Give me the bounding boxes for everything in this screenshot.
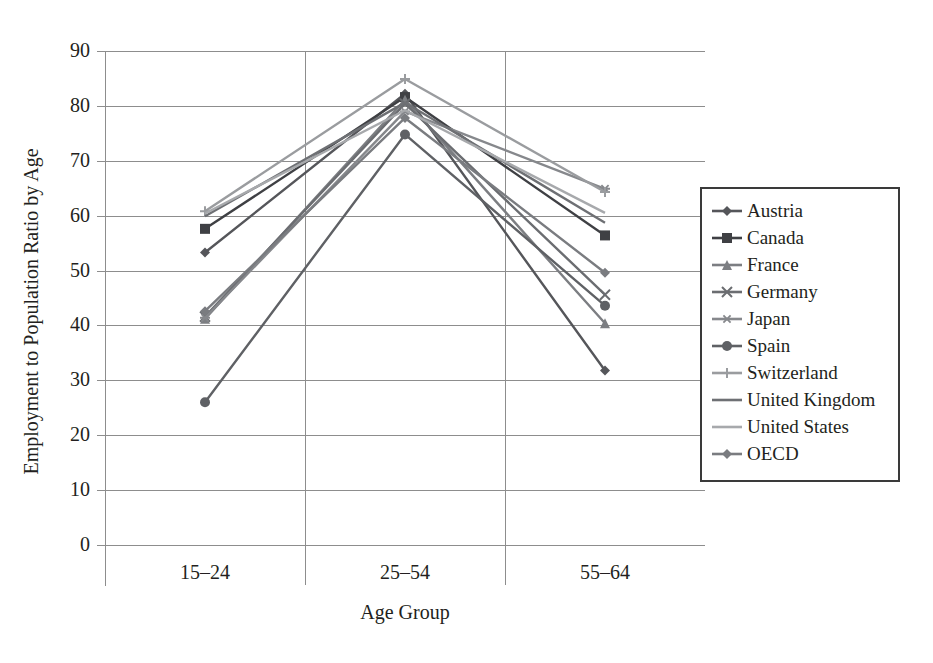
- data-point-square: [722, 233, 732, 243]
- data-point-x: [600, 290, 610, 300]
- x-axis-tick-label: 25–54: [325, 561, 485, 584]
- legend-item-label: Switzerland: [744, 363, 838, 382]
- legend-marker-asterisk-icon: [710, 309, 744, 329]
- data-point-circle: [200, 397, 210, 407]
- data-point-circle: [722, 341, 732, 351]
- legend-marker-circle-icon: [710, 336, 744, 356]
- legend-item-label: Spain: [744, 336, 790, 355]
- legend-item-france[interactable]: France: [702, 251, 898, 278]
- y-axis-tick: [97, 380, 105, 381]
- legend-item-label: Germany: [744, 282, 818, 301]
- x-axis-label: Age Group: [105, 601, 705, 624]
- chart-container: Employment to Population Ratio by Age 01…: [0, 0, 933, 663]
- series-line: [200, 113, 610, 316]
- data-point-diamond: [722, 449, 732, 459]
- legend-marker-line-icon: [710, 417, 744, 437]
- legend-marker-diamond-icon: [710, 201, 744, 221]
- series-line: [200, 108, 610, 322]
- y-axis-tick: [97, 545, 105, 546]
- series-line: [205, 110, 605, 213]
- legend-item-united-kingdom[interactable]: United Kingdom: [702, 386, 898, 413]
- y-axis-tick: [97, 106, 105, 107]
- legend-marker-square-icon: [710, 228, 744, 248]
- y-axis-tick: [97, 51, 105, 52]
- legend: AustriaCanadaFranceGermanyJapanSpainSwit…: [700, 187, 900, 482]
- legend-marker-x-icon: [710, 282, 744, 302]
- legend-item-label: United States: [744, 417, 849, 436]
- legend-marker-triangle-icon: [710, 255, 744, 275]
- legend-item-united-states[interactable]: United States: [702, 413, 898, 440]
- legend-item-germany[interactable]: Germany: [702, 278, 898, 305]
- legend-item-austria[interactable]: Austria: [702, 197, 898, 224]
- y-axis-tick: [97, 216, 105, 217]
- legend-marker-line-icon: [710, 390, 744, 410]
- data-point-plus: [722, 368, 732, 378]
- legend-item-label: France: [744, 255, 799, 274]
- data-point-asterisk: [722, 315, 732, 322]
- y-axis-tick: [97, 271, 105, 272]
- legend-item-label: United Kingdom: [744, 390, 875, 409]
- series-line: [200, 129, 610, 407]
- legend-item-label: OECD: [744, 444, 799, 463]
- legend-item-label: Canada: [744, 228, 804, 247]
- legend-item-label: Austria: [744, 201, 803, 220]
- data-point-diamond: [722, 206, 732, 216]
- data-point-circle: [600, 301, 610, 311]
- legend-item-oecd[interactable]: OECD: [702, 440, 898, 467]
- y-axis-tick: [97, 435, 105, 436]
- legend-item-switzerland[interactable]: Switzerland: [702, 359, 898, 386]
- y-axis-tick: [97, 161, 105, 162]
- data-point-square: [200, 224, 210, 234]
- legend-marker-diamond-icon: [710, 444, 744, 464]
- data-point-circle: [400, 129, 410, 139]
- legend-item-spain[interactable]: Spain: [702, 332, 898, 359]
- y-axis-tick: [97, 490, 105, 491]
- data-point-square: [600, 230, 610, 240]
- x-axis-tick-label: 15–24: [125, 561, 285, 584]
- legend-marker-plus-icon: [710, 363, 744, 383]
- x-axis-tick-label: 55–64: [525, 561, 685, 584]
- legend-item-label: Japan: [744, 309, 790, 328]
- legend-item-canada[interactable]: Canada: [702, 224, 898, 251]
- y-axis-tick: [97, 325, 105, 326]
- legend-item-japan[interactable]: Japan: [702, 305, 898, 332]
